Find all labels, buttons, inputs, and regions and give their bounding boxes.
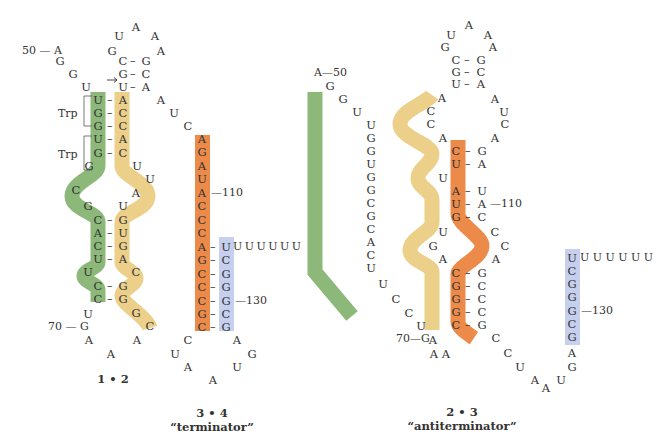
nt: G xyxy=(220,295,232,307)
bond: – xyxy=(107,107,113,119)
nt: U xyxy=(514,361,526,373)
nt: A xyxy=(117,94,129,106)
nt: G xyxy=(476,267,488,279)
nt: G xyxy=(246,348,258,360)
nt: C xyxy=(220,308,232,320)
position-50-label-anti: A—50 xyxy=(314,67,347,79)
nt: A xyxy=(489,93,501,105)
nt: G xyxy=(196,146,208,158)
nt: A xyxy=(231,334,243,346)
nt: C xyxy=(144,320,156,332)
bond: – xyxy=(107,227,113,239)
bond: – xyxy=(465,211,471,223)
arrow-icon xyxy=(107,78,117,83)
bond: – xyxy=(210,281,216,293)
trp-label-1: Trp xyxy=(58,108,78,120)
nt: U xyxy=(131,160,143,172)
nt: G xyxy=(476,145,488,157)
nt: A xyxy=(475,78,487,90)
nt: A xyxy=(437,132,449,144)
nt: A xyxy=(117,253,129,265)
nt: C xyxy=(196,321,208,333)
nt: A xyxy=(196,133,208,145)
nt: G xyxy=(427,240,439,252)
bond: – xyxy=(465,185,471,197)
bond: – xyxy=(107,120,113,132)
position-70-label-anti: 70—G xyxy=(396,333,430,345)
nt: A xyxy=(463,19,475,31)
nt: A xyxy=(489,132,501,144)
bond: – xyxy=(465,293,471,305)
nt: U xyxy=(220,241,232,253)
nt: A xyxy=(92,227,104,239)
nt: G xyxy=(439,41,451,53)
bond: – xyxy=(107,293,113,305)
nt: U xyxy=(365,119,377,131)
nt: A xyxy=(130,187,142,199)
nt: G xyxy=(92,147,104,159)
position-110-label: —110 xyxy=(211,187,243,199)
nt: A xyxy=(487,41,499,53)
nt: G xyxy=(140,55,152,67)
nt: G xyxy=(92,120,104,132)
bond: – xyxy=(465,145,471,157)
nt: C xyxy=(425,118,437,130)
nt: C xyxy=(182,120,194,132)
nt: C xyxy=(92,293,104,305)
bond: – xyxy=(107,240,113,252)
nt: A xyxy=(207,374,219,386)
nt: C xyxy=(476,280,488,292)
nt: C xyxy=(70,184,82,196)
nt: G xyxy=(566,305,578,317)
nt: C xyxy=(489,226,501,238)
nt: C xyxy=(403,307,415,319)
nt: C xyxy=(196,295,208,307)
nt: G xyxy=(365,184,377,196)
nt: G xyxy=(196,254,208,266)
nt: U xyxy=(365,158,377,170)
nt: C xyxy=(502,347,514,359)
nt: G xyxy=(117,280,129,292)
nt: A xyxy=(149,30,161,42)
caption-2-3-line1: 2 • 3 xyxy=(446,405,477,419)
nt: U xyxy=(144,173,156,185)
nt: G xyxy=(337,93,349,105)
trp-label-2: Trp xyxy=(58,149,78,161)
nt: C xyxy=(566,265,578,277)
nt: G xyxy=(196,308,208,320)
nt: A xyxy=(105,348,117,360)
nt: A xyxy=(428,348,440,360)
nt: G xyxy=(130,307,142,319)
nt: G xyxy=(220,321,232,333)
nt: A xyxy=(83,334,95,346)
nt: A xyxy=(196,241,208,253)
nt: U xyxy=(415,320,427,332)
nt: A xyxy=(450,185,462,197)
caption-3-4-line1: 3 • 4 xyxy=(196,406,227,420)
bond: – xyxy=(465,267,471,279)
nt: U xyxy=(351,106,363,118)
nt: A xyxy=(476,198,488,210)
bond: – xyxy=(107,280,113,292)
nt: G xyxy=(54,55,66,67)
nt: G xyxy=(67,68,79,80)
nt: U xyxy=(196,173,208,185)
nt: C xyxy=(117,55,129,67)
nt: U xyxy=(555,374,567,386)
nt: C xyxy=(196,214,208,226)
bond: – xyxy=(107,94,113,106)
nt: U xyxy=(365,262,377,274)
bond: – xyxy=(130,55,136,67)
bond: – xyxy=(130,81,136,93)
bond: – xyxy=(130,68,136,80)
nt: G xyxy=(83,160,95,172)
nt: G xyxy=(82,200,94,212)
nt: G xyxy=(365,210,377,222)
nt: C xyxy=(196,281,208,293)
poly-u-tail-anti: U U U U U U xyxy=(580,252,653,264)
nt: G xyxy=(117,293,129,305)
nt: A xyxy=(196,160,208,172)
nt: U xyxy=(92,133,104,145)
nt: A xyxy=(130,21,142,33)
position-70-label: 70 — G xyxy=(48,321,89,333)
